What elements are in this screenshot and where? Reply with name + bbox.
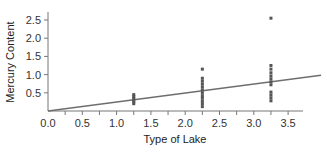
x-tick-label: 0.0	[40, 117, 55, 129]
x-tick-label: 3.5	[280, 117, 295, 129]
x-tick-label: 2.0	[178, 117, 193, 129]
data-point	[269, 91, 272, 94]
x-tick-label: 2.5	[212, 117, 227, 129]
data-point	[201, 88, 204, 91]
data-point	[201, 105, 204, 108]
data-point	[201, 80, 204, 83]
y-axis-title: Mercury Content	[4, 21, 16, 102]
data-point	[201, 83, 204, 86]
data-point	[201, 102, 204, 105]
data-point	[132, 93, 135, 96]
data-point	[269, 80, 272, 83]
data-point	[269, 96, 272, 99]
data-point	[269, 93, 272, 96]
data-point	[201, 91, 204, 94]
x-axis-title: Type of Lake	[144, 133, 207, 145]
y-ticks: 0.51.01.52.02.5	[26, 14, 48, 99]
x-tick-label: 1.0	[109, 117, 124, 129]
data-point	[201, 85, 204, 88]
x-tick-label: 0.5	[75, 117, 90, 129]
y-tick-label: 1.0	[26, 69, 41, 81]
data-point	[201, 68, 204, 71]
data-point	[269, 99, 272, 102]
y-tick-label: 0.5	[26, 87, 41, 99]
x-tick-label: 1.5	[143, 117, 158, 129]
data-points	[132, 17, 272, 108]
data-point	[269, 68, 272, 71]
y-tick-label: 1.5	[26, 50, 41, 62]
data-point	[201, 97, 204, 100]
scatter-chart: 0.00.51.01.52.02.53.03.5 0.51.01.52.02.5…	[0, 0, 327, 153]
data-point	[201, 77, 204, 80]
data-point	[269, 75, 272, 78]
y-tick-label: 2.5	[26, 14, 41, 26]
axes: 0.00.51.01.52.02.53.03.5 0.51.01.52.02.5	[26, 12, 303, 129]
x-ticks: 0.00.51.01.52.02.53.03.5	[40, 111, 295, 129]
data-point	[269, 17, 272, 20]
data-point	[269, 71, 272, 74]
y-tick-label: 2.0	[26, 32, 41, 44]
data-point	[269, 83, 272, 86]
data-point	[269, 64, 272, 67]
data-point	[269, 77, 272, 80]
regression-line	[48, 75, 321, 111]
x-tick-label: 3.0	[246, 117, 261, 129]
